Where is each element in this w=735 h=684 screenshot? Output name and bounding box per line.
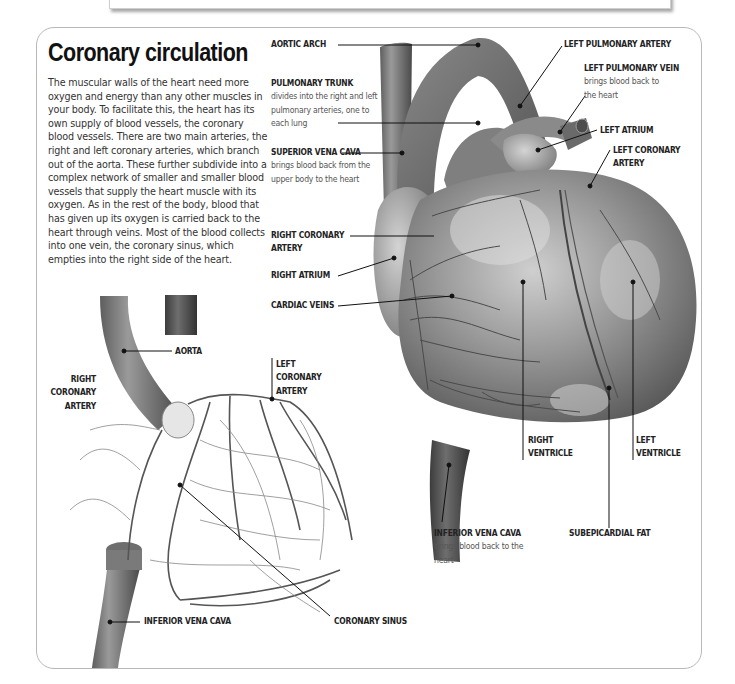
label-pulmonary-trunk: PULMONARY TRUNK divides into the right a… bbox=[271, 77, 381, 131]
label-aortic-arch: AORTIC ARCH bbox=[271, 38, 326, 51]
label-left-ventricle: LEFT VENTRICLE bbox=[636, 434, 686, 461]
intro-paragraph: The muscular walls of the heart need mor… bbox=[48, 76, 270, 266]
label-left-pulmonary-artery: LEFT PULMONARY ARTERY bbox=[564, 38, 671, 51]
label-subepicardial-fat: SUBEPICARDIAL FAT bbox=[569, 527, 650, 540]
label-inferior-vena-cava: INFERIOR VENA CAVA brings blood back to … bbox=[434, 527, 524, 567]
label-coronary-sinus: CORONARY SINUS bbox=[334, 615, 407, 628]
label-network-inferior-vena-cava: INFERIOR VENA CAVA bbox=[144, 615, 231, 628]
label-network-right-coronary-artery: RIGHT CORONARY ARTERY bbox=[40, 373, 96, 413]
label-cardiac-veins: CARDIAC VEINS bbox=[271, 299, 334, 312]
label-superior-vena-cava: SUPERIOR VENA CAVA brings blood back fro… bbox=[271, 146, 371, 186]
label-left-atrium: LEFT ATRIUM bbox=[600, 124, 653, 137]
label-left-coronary-artery: LEFT CORONARY ARTERY bbox=[613, 144, 685, 171]
label-network-left-coronary-artery: LEFT CORONARY ARTERY bbox=[276, 358, 326, 398]
page-title: Coronary circulation bbox=[48, 38, 248, 67]
label-left-pulmonary-vein: LEFT PULMONARY VEIN brings blood back to… bbox=[584, 62, 679, 102]
label-right-atrium: RIGHT ATRIUM bbox=[271, 269, 330, 282]
label-right-ventricle: RIGHT VENTRICLE bbox=[528, 434, 578, 461]
heart-illustration bbox=[374, 38, 697, 562]
label-aorta: AORTA bbox=[175, 345, 202, 358]
label-right-coronary-artery: RIGHT CORONARY ARTERY bbox=[271, 229, 347, 256]
coronary-network-illustration bbox=[70, 295, 352, 668]
